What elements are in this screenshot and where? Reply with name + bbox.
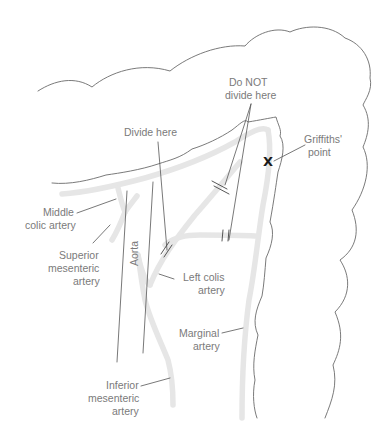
tick-dnd-lower-1	[222, 230, 223, 241]
sma-leader	[93, 225, 110, 243]
ima-leader	[141, 378, 170, 386]
sma-vessel	[112, 212, 125, 240]
label-left-colic-2: artery	[198, 284, 226, 296]
label-left-colic-1: Left colis	[183, 271, 224, 283]
divide-here-leader	[158, 142, 167, 250]
left-colic-leader	[159, 274, 174, 279]
middle-colic-leader	[77, 199, 116, 213]
middle-colic-vessel	[118, 188, 125, 212]
colon-outer-wall	[38, 27, 371, 418]
label-ima-3: artery	[112, 405, 140, 417]
label-middle-colic-2: colic artery	[25, 219, 77, 231]
griffiths-point-marker: X	[263, 154, 273, 169]
colon-blood-supply-diagram: X Do NOT divide here Divide here Griffit…	[0, 0, 388, 447]
labels: Do NOT divide here Divide here Griffiths…	[25, 76, 342, 417]
label-divide-here: Divide here	[124, 126, 177, 138]
label-griffiths-2: point	[308, 146, 331, 158]
label-marginal-1: Marginal	[179, 327, 219, 339]
label-griffiths-1: Griffiths'	[304, 133, 342, 145]
marginal-artery-vessel	[242, 130, 270, 418]
label-middle-colic-1: Middle	[43, 206, 74, 218]
marginal-leader	[222, 328, 243, 333]
label-sma-1: Superior	[59, 249, 99, 261]
label-do-not-divide-2: divide here	[225, 89, 277, 101]
label-aorta: Aorta	[128, 241, 140, 266]
label-marginal-2: artery	[193, 340, 221, 352]
label-sma-3: artery	[73, 275, 101, 287]
left-colic-horizontal-vessel	[165, 235, 255, 245]
griffiths-leader	[274, 145, 305, 161]
label-ima-1: Inferior	[106, 379, 139, 391]
label-ima-2: mesenteric	[88, 392, 139, 404]
label-sma-2: mesenteric	[48, 262, 99, 274]
label-do-not-divide-1: Do NOT	[229, 76, 268, 88]
